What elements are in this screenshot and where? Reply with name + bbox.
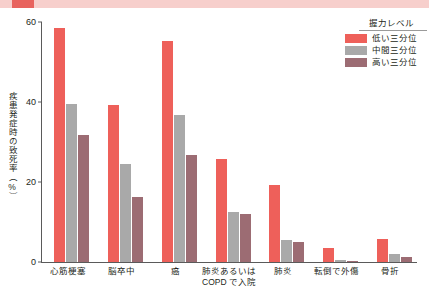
bar[interactable] [240,214,251,262]
x-tick-label: 骨折 [355,266,425,277]
bar[interactable] [132,197,143,262]
top-decorative-band [0,0,429,8]
legend-item-label: 中間三分位 [372,46,417,55]
bar[interactable] [186,155,197,262]
bar[interactable] [54,28,65,262]
bar[interactable] [293,242,304,262]
bar[interactable] [228,212,239,262]
bar-group [216,22,251,262]
bar[interactable] [66,104,77,262]
legend-item[interactable]: 高い三分位 [345,58,427,67]
legend-item[interactable]: 低い三分位 [345,34,427,43]
bar[interactable] [162,41,173,262]
legend-color-swatch [345,58,367,67]
bar[interactable] [281,240,292,262]
x-axis-line [41,262,417,263]
chart-page: 疾患発症時の致死率（%） 0204060 心筋梗塞脳卒中癌肺炎あるいは COPD… [0,0,429,292]
bar-group [162,22,197,262]
legend-divider [359,30,427,31]
legend-items: 低い三分位中間三分位高い三分位 [345,34,427,67]
bar[interactable] [335,260,346,262]
bar-group [108,22,143,262]
legend-color-swatch [345,34,367,43]
bar[interactable] [108,105,119,262]
legend: 握力レベル 低い三分位中間三分位高い三分位 [345,16,427,70]
y-axis-title: 疾患発症時の致死率（%） [4,92,17,201]
legend-item-label: 高い三分位 [372,58,417,67]
bar[interactable] [389,254,400,262]
bar[interactable] [78,135,89,262]
bar[interactable] [401,257,412,262]
bar[interactable] [269,185,280,262]
bar-group [54,22,89,262]
bar[interactable] [323,248,334,262]
legend-item-label: 低い三分位 [372,34,417,43]
bar[interactable] [216,159,227,262]
bar-group [269,22,304,262]
bar[interactable] [174,115,185,262]
top-band-accent [12,0,34,8]
bar[interactable] [120,164,131,262]
legend-item[interactable]: 中間三分位 [345,46,427,55]
bar[interactable] [377,239,388,262]
legend-color-swatch [345,46,367,55]
legend-title: 握力レベル [345,16,427,28]
bar[interactable] [347,261,358,262]
